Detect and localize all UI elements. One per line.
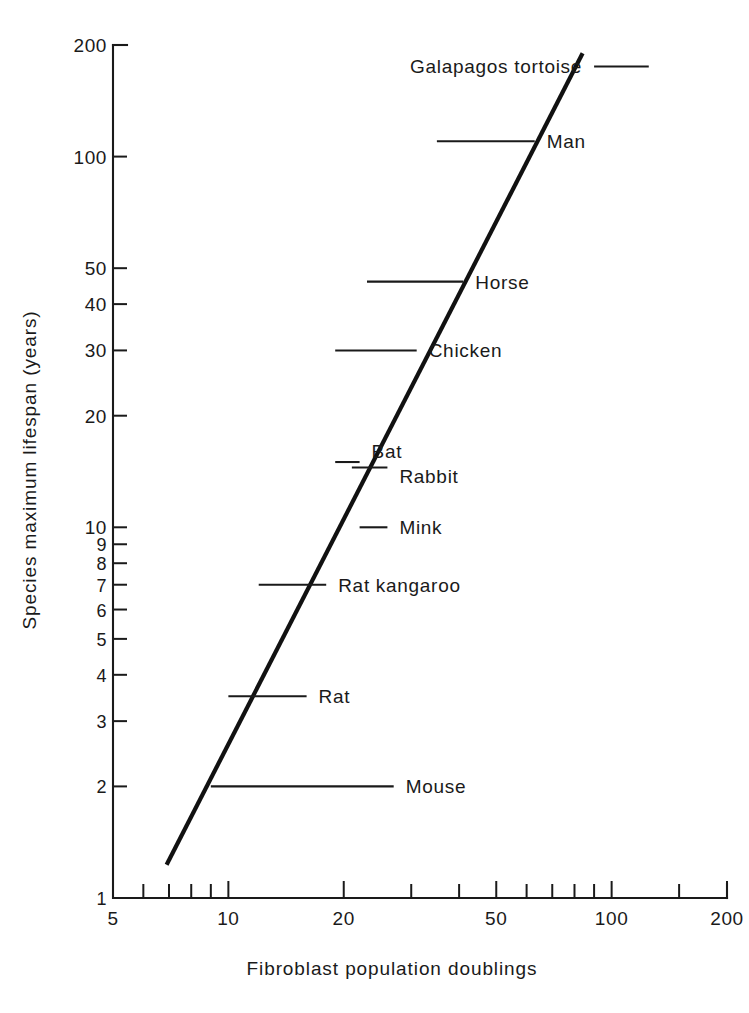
y-tick-label-5: 5 bbox=[97, 630, 107, 650]
species-data-points: Galapagos tortoiseManHorseChickenBatRabb… bbox=[211, 56, 649, 797]
y-axis-title: Species maximum lifespan (years) bbox=[19, 310, 40, 629]
species-label-rat: Rat bbox=[319, 686, 351, 707]
figure-container: 1234567891020304050100200 5102050100200 … bbox=[0, 0, 749, 1013]
species-label-bat: Bat bbox=[372, 441, 403, 462]
y-tick-label-3: 3 bbox=[97, 712, 107, 732]
x-axis-tick-labels: 5102050100200 bbox=[107, 908, 743, 929]
x-tick-label-10: 10 bbox=[217, 908, 239, 929]
x-tick-label-200: 200 bbox=[710, 908, 744, 929]
data-point-galapagos-tortoise: Galapagos tortoise bbox=[410, 56, 649, 77]
y-tick-label-40: 40 bbox=[85, 294, 107, 315]
species-label-mink: Mink bbox=[399, 517, 442, 538]
species-label-rat-kangaroo: Rat kangaroo bbox=[338, 575, 460, 596]
species-label-rabbit: Rabbit bbox=[399, 466, 458, 487]
data-point-bat: Bat bbox=[335, 441, 402, 462]
x-tick-label-20: 20 bbox=[333, 908, 355, 929]
y-tick-label-2: 2 bbox=[97, 777, 107, 797]
data-point-chicken: Chicken bbox=[335, 340, 502, 361]
x-tick-label-100: 100 bbox=[595, 908, 629, 929]
species-label-mouse: Mouse bbox=[406, 776, 467, 797]
data-point-horse: Horse bbox=[367, 272, 529, 293]
data-point-mink: Mink bbox=[360, 517, 443, 538]
species-label-chicken: Chicken bbox=[429, 340, 503, 361]
data-point-man: Man bbox=[437, 131, 586, 152]
lifespan-vs-doublings-scatter: 1234567891020304050100200 5102050100200 … bbox=[0, 0, 749, 1013]
y-tick-label-20: 20 bbox=[85, 406, 107, 427]
data-point-rat-kangaroo: Rat kangaroo bbox=[259, 575, 461, 596]
y-tick-label-8: 8 bbox=[97, 554, 107, 574]
x-tick-label-50: 50 bbox=[485, 908, 507, 929]
y-tick-label-10: 10 bbox=[85, 517, 107, 538]
y-tick-label-100: 100 bbox=[73, 147, 107, 168]
data-point-mouse: Mouse bbox=[211, 776, 466, 797]
y-axis-tick-labels: 1234567891020304050100200 bbox=[73, 35, 107, 909]
y-tick-label-1: 1 bbox=[97, 889, 107, 909]
x-axis-title: Fibroblast population doublings bbox=[247, 958, 538, 979]
y-tick-label-30: 30 bbox=[85, 340, 107, 361]
y-tick-label-6: 6 bbox=[97, 601, 107, 621]
species-label-galapagos-tortoise: Galapagos tortoise bbox=[410, 56, 582, 77]
y-tick-label-4: 4 bbox=[97, 666, 107, 686]
x-axis-ticks bbox=[113, 881, 727, 898]
y-tick-label-50: 50 bbox=[85, 258, 107, 279]
species-label-man: Man bbox=[547, 131, 586, 152]
y-tick-label-200: 200 bbox=[73, 35, 107, 56]
y-tick-label-7: 7 bbox=[97, 576, 107, 596]
x-tick-label-5: 5 bbox=[107, 908, 118, 929]
y-axis-ticks bbox=[113, 45, 127, 898]
species-label-horse: Horse bbox=[475, 272, 529, 293]
